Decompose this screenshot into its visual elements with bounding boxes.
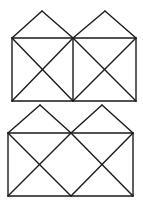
figure-top xyxy=(12,11,136,101)
roof-right-slope xyxy=(73,11,105,38)
roof-right-slope xyxy=(105,11,136,38)
roof-left-slope xyxy=(40,105,71,133)
roof-left-slope xyxy=(8,105,40,133)
roof-right-slope xyxy=(102,105,133,133)
roof-right-slope xyxy=(71,105,102,133)
roof-left-slope xyxy=(42,11,73,38)
roof-left-slope xyxy=(12,11,42,38)
figure-bottom xyxy=(8,105,133,196)
diagram-canvas xyxy=(0,0,143,209)
